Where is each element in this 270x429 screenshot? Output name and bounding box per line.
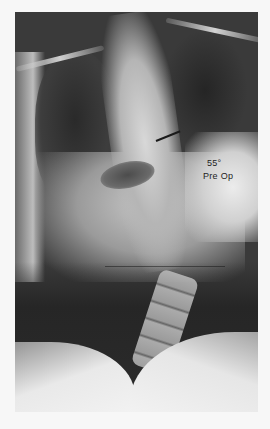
stage-label: Pre Op: [203, 171, 233, 182]
label-background-area: [185, 132, 258, 242]
cobb-angle-label: 55°: [207, 158, 222, 169]
lower-endplate-marker: [105, 266, 225, 267]
xray-image: [15, 12, 258, 412]
